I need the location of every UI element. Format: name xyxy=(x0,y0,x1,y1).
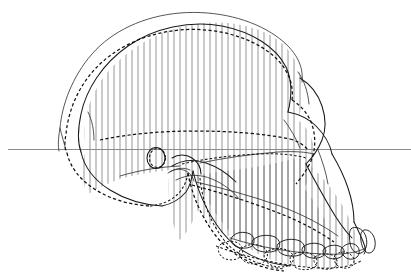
skull-comparison-figure xyxy=(0,0,411,278)
solid-outline-skull xyxy=(58,12,365,266)
hatched-cranium-region xyxy=(60,0,348,278)
skull-diagram-svg xyxy=(0,0,411,278)
lower-tooth-row xyxy=(216,241,362,269)
